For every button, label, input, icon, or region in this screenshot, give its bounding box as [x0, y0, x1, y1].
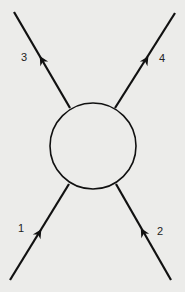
interaction-blob	[50, 103, 136, 189]
diagram-svg: 1234	[0, 0, 185, 292]
leg-label-2: 2	[157, 225, 163, 237]
leg-label-4: 4	[159, 52, 165, 64]
leg-label-1: 1	[18, 222, 24, 234]
leg-label-3: 3	[21, 51, 27, 63]
scattering-diagram: 1234	[0, 0, 185, 292]
leg-4	[115, 13, 175, 108]
